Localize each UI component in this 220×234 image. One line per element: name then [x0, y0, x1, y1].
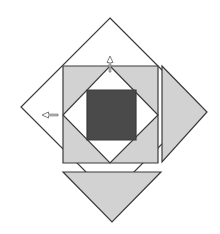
geometric-figure-canvas: [0, 0, 220, 234]
center-dark-square: [87, 90, 136, 140]
diagram-svg: [0, 0, 220, 234]
